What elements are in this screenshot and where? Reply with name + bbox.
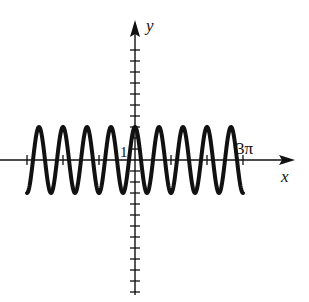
y-axis-label: y	[144, 16, 154, 35]
x-tick-label: 3π	[236, 139, 254, 158]
graph: y x 3π 1	[0, 0, 309, 302]
y-tick-label: 1	[120, 144, 128, 160]
x-axis-label: x	[280, 167, 289, 186]
